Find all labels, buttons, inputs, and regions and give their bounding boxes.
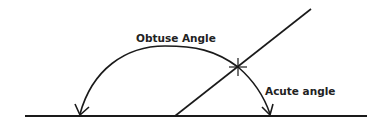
acute-angle-label: Acute angle: [265, 85, 335, 97]
obtuse-arc: [80, 46, 238, 114]
angle-diagram: Obtuse Angle Acute angle: [0, 0, 387, 126]
obtuse-angle-label: Obtuse Angle: [136, 32, 216, 44]
transversal-line: [175, 9, 311, 116]
